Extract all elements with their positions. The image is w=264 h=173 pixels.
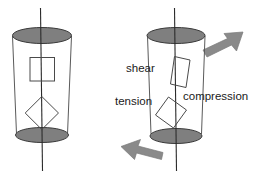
- compression-label: compression: [183, 90, 248, 102]
- left-cylinder-group: [13, 8, 72, 171]
- tension-compression-element: [156, 97, 187, 128]
- right-cylinder-left-wall: [148, 36, 152, 134]
- shear-parallelogram-element: [171, 57, 191, 88]
- top-torque-arrow: [203, 32, 243, 57]
- figure-canvas: shear tension compression: [0, 0, 264, 173]
- right-cylinder-top-ellipse: [147, 28, 205, 44]
- tension-label: tension: [115, 95, 152, 107]
- right-cylinder-group: shear tension compression: [115, 8, 248, 171]
- left-square-element: [30, 58, 55, 82]
- left-cylinder-right-wall: [68, 36, 72, 134]
- shear-label: shear: [126, 62, 155, 74]
- torsion-diagram: shear tension compression: [0, 0, 264, 173]
- left-cylinder-top-ellipse: [13, 28, 72, 44]
- bottom-torque-arrow: [121, 140, 163, 160]
- left-cylinder-left-wall: [13, 36, 17, 134]
